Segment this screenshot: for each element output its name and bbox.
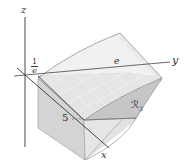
region-diagram: z y x e 5 1 e ℛ3 — [0, 0, 186, 168]
region-symbol: ℛ — [131, 99, 139, 110]
y-axis-label: y — [172, 55, 178, 66]
x-tick-label: 5 — [62, 113, 68, 123]
diagram-canvas — [0, 0, 186, 168]
region-subscript: 3 — [139, 105, 143, 112]
z-tick-label: 1 e — [31, 58, 38, 75]
region-label: ℛ3 — [131, 100, 143, 112]
z-tick-denominator: e — [31, 67, 38, 75]
x-axis-label: x — [101, 150, 107, 160]
y-tick-label: e — [114, 57, 119, 66]
z-axis-label: z — [21, 5, 26, 15]
